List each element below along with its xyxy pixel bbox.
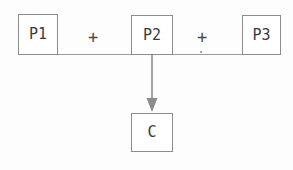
plus-operator-2: +: [197, 29, 207, 46]
diagram-canvas: P1 + P2 + P3 C: [0, 0, 293, 170]
arrow-down-icon: [138, 54, 166, 114]
node-box-p2[interactable]: P2: [131, 15, 173, 55]
node-label-p3: P3: [252, 28, 270, 43]
node-label-p2: P2: [143, 28, 161, 43]
node-label-p1: P1: [29, 27, 47, 42]
node-box-p1[interactable]: P1: [18, 14, 58, 55]
node-box-c[interactable]: C: [131, 113, 173, 152]
node-label-c: C: [147, 125, 156, 140]
scan-artifact-speck: [200, 51, 202, 53]
node-box-p3[interactable]: P3: [242, 15, 281, 55]
plus-operator-1: +: [88, 29, 98, 46]
